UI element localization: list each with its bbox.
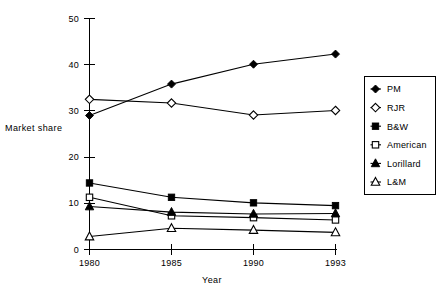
series-line xyxy=(90,54,336,115)
open-triangle-marker xyxy=(249,225,257,233)
legend-item-rjr[interactable]: RJR xyxy=(371,103,406,113)
filled-diamond-marker xyxy=(86,112,94,120)
filled-diamond-marker xyxy=(250,60,258,68)
legend-label: B&W xyxy=(387,122,408,132)
x-tick-group: 1980 1985 1990 1993 xyxy=(79,244,346,268)
open-diamond-marker xyxy=(249,111,257,119)
x-tick-label-1993: 1993 xyxy=(325,258,346,268)
open-square-marker xyxy=(86,194,92,200)
open-square-icon xyxy=(372,142,378,148)
filled-diamond-marker xyxy=(332,50,340,58)
line-chart-canvas: 50 40 30 20 10 0 1980 1985 1990 1993 Mar… xyxy=(0,0,441,292)
filled-square-marker xyxy=(168,194,174,200)
y-axis-title: Market share xyxy=(5,123,62,133)
filled-triangle-marker xyxy=(249,209,257,217)
open-diamond-marker xyxy=(85,95,93,103)
axis-group xyxy=(90,18,338,250)
open-triangle-marker xyxy=(167,224,175,232)
series-line xyxy=(90,207,336,214)
open-diamond-marker xyxy=(331,106,339,114)
series-l-m xyxy=(85,224,339,240)
series-line xyxy=(90,183,336,206)
legend-label: American xyxy=(387,140,427,150)
open-square-marker xyxy=(332,217,338,223)
filled-triangle-marker xyxy=(331,209,339,217)
x-axis-title: Year xyxy=(202,275,222,285)
chart-figure: 50 40 30 20 10 0 1980 1985 1990 1993 Mar… xyxy=(0,0,441,292)
series-b-w xyxy=(86,180,338,209)
filled-square-marker xyxy=(332,202,338,208)
y-tick-label-30: 30 xyxy=(69,106,79,116)
y-tick-label-20: 20 xyxy=(69,152,79,162)
legend-label: RJR xyxy=(387,103,405,113)
filled-square-marker xyxy=(86,180,92,186)
filled-square-marker xyxy=(250,200,256,206)
y-tick-label-0: 0 xyxy=(74,245,79,255)
y-tick-label-50: 50 xyxy=(69,14,79,24)
y-tick-label-40: 40 xyxy=(69,60,79,70)
x-tick-label-1990: 1990 xyxy=(243,258,264,268)
open-triangle-marker xyxy=(331,228,339,236)
y-tick-label-10: 10 xyxy=(69,198,79,208)
x-tick-label-1985: 1985 xyxy=(161,258,182,268)
x-tick-label-1980: 1980 xyxy=(79,258,100,268)
legend-label: PM xyxy=(387,84,401,94)
chart-legend: PMRJRB&WAmericanLorillardL&M xyxy=(365,77,436,195)
series-rjr xyxy=(85,95,339,119)
legend-item-l-m[interactable]: L&M xyxy=(371,177,407,187)
legend-label: Lorillard xyxy=(387,159,421,169)
series-line xyxy=(90,228,336,236)
legend-label: L&M xyxy=(387,177,406,187)
filled-diamond-marker xyxy=(168,80,176,88)
series-layer xyxy=(85,50,339,240)
filled-square-icon xyxy=(372,123,378,129)
y-tick-group: 50 40 30 20 10 0 xyxy=(69,14,95,255)
open-diamond-marker xyxy=(167,99,175,107)
